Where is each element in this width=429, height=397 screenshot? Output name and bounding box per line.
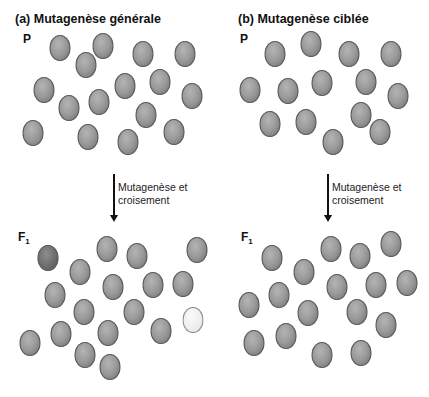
organism-icon bbox=[298, 300, 319, 326]
organism-icon bbox=[50, 35, 71, 61]
organism-icon bbox=[150, 69, 171, 95]
organism-icon bbox=[276, 323, 297, 349]
panel-a-f1-label: F1 bbox=[18, 230, 30, 246]
organism-icon bbox=[45, 282, 66, 308]
organism-icon bbox=[323, 129, 344, 155]
panel-a-arrow-icon bbox=[113, 174, 115, 216]
organism-icon bbox=[51, 321, 72, 347]
organism-icon bbox=[97, 236, 118, 262]
organism-icon bbox=[301, 31, 322, 57]
organism-icon bbox=[388, 83, 409, 109]
organism-icon bbox=[351, 340, 372, 366]
panel-a-step-line1: Mutagenèse et bbox=[118, 181, 187, 194]
organism-icon bbox=[98, 320, 119, 346]
organism-icon bbox=[133, 41, 154, 67]
organism-icon bbox=[381, 41, 402, 67]
panel-b-step-line1: Mutagenèse et bbox=[332, 181, 401, 194]
organism-icon bbox=[118, 129, 139, 155]
organism-icon bbox=[366, 272, 387, 298]
panel-b-title: (b) Mutagenèse ciblée bbox=[238, 12, 369, 26]
organism-icon bbox=[74, 299, 95, 325]
organism-icon bbox=[89, 89, 110, 115]
organism-icon bbox=[115, 73, 136, 99]
organism-icon bbox=[321, 236, 342, 262]
panel-b-step-line2: croisement bbox=[332, 194, 401, 207]
organism-icon bbox=[20, 330, 41, 356]
organism-icon bbox=[100, 354, 121, 380]
mutant-organism-icon bbox=[183, 307, 204, 333]
panel-b-f1-sub: 1 bbox=[248, 237, 252, 246]
organism-icon bbox=[136, 102, 157, 128]
panel-a-step-label: Mutagenèse et croisement bbox=[118, 181, 187, 207]
organism-icon bbox=[151, 318, 172, 344]
organism-icon bbox=[143, 272, 164, 298]
organism-icon bbox=[265, 41, 286, 67]
organism-icon bbox=[103, 274, 124, 300]
organism-icon bbox=[350, 243, 371, 269]
organism-icon bbox=[262, 245, 283, 271]
organism-icon bbox=[347, 299, 368, 325]
organism-icon bbox=[269, 282, 290, 308]
panel-a-title: (a) Mutagenèse générale bbox=[15, 12, 161, 26]
organism-icon bbox=[339, 41, 360, 67]
organism-icon bbox=[240, 77, 261, 103]
organism-icon bbox=[76, 52, 97, 78]
organism-icon bbox=[124, 299, 145, 325]
organism-icon bbox=[278, 78, 299, 104]
organism-icon bbox=[127, 243, 148, 269]
organism-icon bbox=[173, 271, 194, 297]
organism-icon bbox=[164, 119, 185, 145]
organism-icon bbox=[327, 274, 348, 300]
organism-icon bbox=[312, 342, 333, 368]
organism-icon bbox=[34, 77, 55, 103]
organism-icon bbox=[356, 69, 377, 95]
organism-icon bbox=[23, 120, 44, 146]
organism-icon bbox=[244, 330, 265, 356]
panel-a-parent-label: P bbox=[23, 32, 31, 46]
panel-b-step-label: Mutagenèse et croisement bbox=[332, 181, 401, 207]
organism-icon bbox=[239, 292, 260, 318]
organism-icon bbox=[381, 231, 402, 257]
panel-a-f1-sub: 1 bbox=[25, 237, 29, 246]
organism-icon bbox=[187, 237, 208, 263]
organism-icon bbox=[78, 124, 99, 150]
organism-icon bbox=[294, 259, 315, 285]
organism-icon bbox=[376, 312, 397, 338]
organism-icon bbox=[70, 259, 91, 285]
organism-icon bbox=[351, 102, 372, 128]
panel-b-arrow-icon bbox=[327, 174, 329, 216]
organism-icon bbox=[75, 342, 96, 368]
organism-icon bbox=[260, 111, 281, 137]
organism-icon bbox=[296, 109, 317, 135]
organism-icon bbox=[312, 70, 333, 96]
organism-icon bbox=[93, 33, 114, 59]
organism-icon bbox=[370, 119, 391, 145]
organism-icon bbox=[38, 245, 59, 271]
organism-icon bbox=[182, 83, 203, 109]
panel-b-f1-label: F1 bbox=[241, 230, 253, 246]
organism-icon bbox=[175, 41, 196, 67]
organism-icon bbox=[397, 270, 418, 296]
organism-icon bbox=[59, 95, 80, 121]
panel-a-step-line2: croisement bbox=[118, 194, 187, 207]
panel-b-parent-label: P bbox=[240, 32, 248, 46]
